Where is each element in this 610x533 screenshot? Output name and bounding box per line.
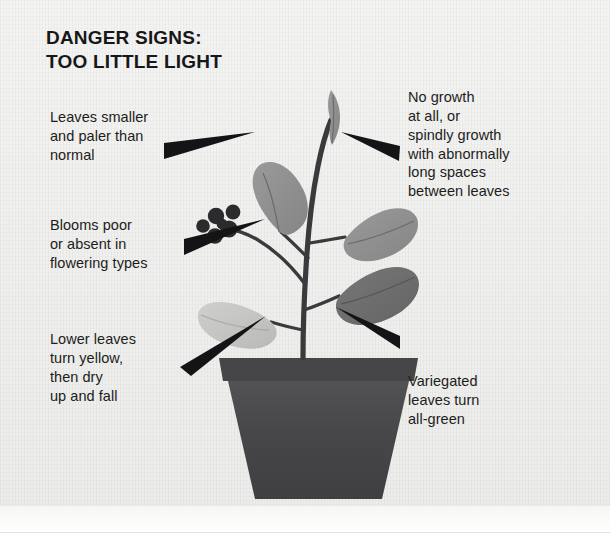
arrow-no-growth [341, 132, 400, 161]
figure-canvas: DANGER SIGNS: TOO LITTLE LIGHT Leaves sm… [0, 0, 610, 533]
petiole-upper-right [310, 237, 345, 243]
upper-left-leaf [253, 162, 308, 235]
pot-body [228, 381, 409, 499]
figure-title: DANGER SIGNS: TOO LITTLE LIGHT [46, 26, 376, 73]
petiole-lower-right [304, 296, 339, 310]
callout-label-blooms-poor: Blooms poor or absent in flowering types [50, 216, 210, 273]
petiole-upper-left [281, 232, 308, 258]
top-bud-leaf [328, 90, 340, 145]
lower-right-leaf [336, 267, 419, 325]
callout-label-no-growth: No growth at all, or spindly growth with… [408, 88, 588, 201]
pale-lower-leaf [198, 302, 277, 349]
upper-right-leaf [344, 208, 418, 261]
flower-stem [228, 229, 305, 284]
callout-label-leaves-smaller: Leaves smaller and paler than normal [50, 108, 205, 165]
flower-pot [219, 358, 418, 499]
pot-rim [219, 358, 418, 381]
callout-label-variegated: Variegated leaves turn all-green [408, 372, 583, 429]
callout-label-lower-leaves: Lower leaves turn yellow, then dry up an… [50, 330, 200, 405]
